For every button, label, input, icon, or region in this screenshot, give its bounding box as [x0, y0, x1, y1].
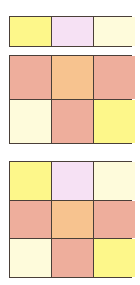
grid-cell-cream	[10, 239, 51, 277]
grid-cell-peach	[52, 201, 93, 239]
grid-cell-salmon	[94, 201, 135, 239]
grid-1x3	[9, 16, 132, 47]
grid-cell-cream	[94, 17, 135, 46]
grid-cell-yellow	[94, 100, 135, 143]
grid-cell-yellow	[10, 162, 51, 200]
grid-cell-yellow	[10, 17, 51, 46]
grid-cell-salmon	[52, 100, 93, 143]
grid-cell-yellow	[94, 239, 135, 277]
grid-cell-cream	[94, 162, 135, 200]
grid-cell-peach	[52, 56, 93, 99]
grid-2x3	[9, 55, 132, 144]
grid-cell-cream	[10, 100, 51, 143]
grid-cell-salmon	[10, 201, 51, 239]
grid-cell-salmon	[94, 56, 135, 99]
grid-cell-lavender	[52, 162, 93, 200]
grid-3x3	[9, 161, 132, 278]
grid-cell-salmon	[52, 239, 93, 277]
grid-cell-salmon	[10, 56, 51, 99]
grid-cell-lavender	[52, 17, 93, 46]
